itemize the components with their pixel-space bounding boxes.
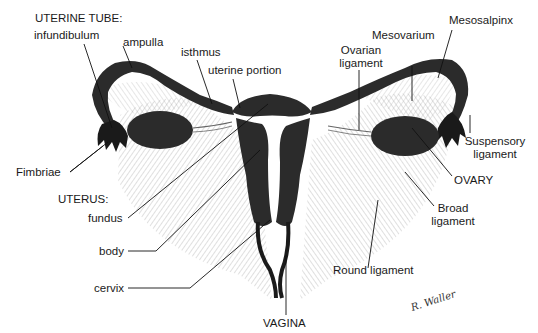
label-broad-ligament: Broad ligament (425, 202, 481, 228)
label-infundibulum: infundibulum (34, 29, 99, 42)
anatomy-illustration (0, 0, 538, 333)
label-ovarian-ligament-line2: ligament (333, 57, 389, 70)
label-body: body (99, 245, 124, 258)
uterus-fundus (232, 94, 312, 117)
label-ovarian-ligament-line1: Ovarian (333, 44, 389, 57)
label-vagina: VAGINA (263, 317, 306, 330)
label-broad-line2: ligament (425, 215, 481, 228)
label-round-ligament: Round ligament (333, 264, 414, 277)
heading-uterus: UTERUS: (58, 193, 108, 206)
vagina-wall-right (280, 222, 288, 298)
label-ovary: OVARY (454, 174, 493, 187)
uterus-body-right (276, 118, 310, 226)
label-fundus: fundus (88, 212, 123, 225)
anatomy-diagram: UTERINE TUBE: infundibulum ampulla isthm… (0, 0, 538, 333)
label-uterine-portion: uterine portion (208, 64, 282, 77)
label-suspensory-line2: ligament (460, 148, 530, 161)
label-mesosalpinx: Mesosalpinx (449, 14, 513, 27)
label-fimbriae: Fimbriae (16, 166, 61, 179)
label-cervix: cervix (94, 282, 124, 295)
label-ampulla: ampulla (123, 36, 163, 49)
ovary-left (127, 111, 193, 149)
label-isthmus: isthmus (181, 46, 221, 59)
label-ovarian-ligament: Ovarian ligament (333, 44, 389, 70)
label-broad-line1: Broad (425, 202, 481, 215)
ovary-right (371, 116, 439, 156)
label-suspensory-line1: Suspensory (460, 135, 530, 148)
label-mesovarium: Mesovarium (372, 29, 435, 42)
heading-uterine-tube: UTERINE TUBE: (35, 12, 122, 25)
label-suspensory-ligament: Suspensory ligament (460, 135, 530, 161)
